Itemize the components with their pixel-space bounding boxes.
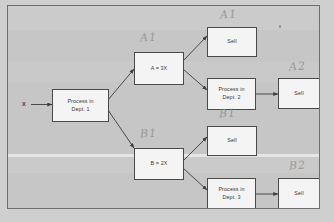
node-a-equals-3x[interactable]: A = 3X (134, 52, 184, 85)
node-a-equals-3x-label: A = 3X (151, 65, 168, 73)
node-process-dept-1-line-2: Dept. 1 (67, 106, 93, 114)
node-sell-a2[interactable]: Sell (278, 78, 320, 109)
node-process-dept-2-line-1: Process in (218, 86, 244, 94)
connector-b-to-proc3 (183, 168, 207, 190)
connector-a-to-proc2 (183, 69, 207, 90)
node-process-dept-1-line-1: Process in (67, 98, 93, 106)
node-b-equals-2x-label: B = 2X (151, 160, 168, 168)
node-process-dept-1[interactable]: Process in Dept. 1 (52, 89, 109, 122)
node-sell-b1-label: Sell (227, 137, 236, 145)
connector-a-to-sell-a1 (183, 36, 207, 61)
connector-proc1-to-b (108, 110, 134, 148)
diagram-sheet: X Process in Dept. 1 A = 3X B = 2X Sell … (7, 5, 320, 209)
connector-proc1-to-a (108, 69, 134, 100)
node-b-equals-2x[interactable]: B = 2X (134, 148, 184, 180)
node-sell-a1-label: Sell (227, 38, 236, 46)
screenshot-canvas: X Process in Dept. 1 A = 3X B = 2X Sell … (0, 0, 334, 222)
node-process-dept-3[interactable]: Process in Dept. 3 (207, 178, 256, 209)
node-sell-a1[interactable]: Sell (207, 27, 257, 57)
node-sell-b1[interactable]: Sell (207, 126, 257, 156)
connector-b-to-sell-b1 (183, 137, 207, 161)
node-process-dept-3-line-2: Dept. 3 (218, 194, 244, 202)
node-process-dept-2-line-2: Dept. 2 (218, 94, 244, 102)
node-sell-a2-label: Sell (294, 90, 303, 98)
input-label-x: X (22, 101, 26, 107)
node-process-dept-2[interactable]: Process in Dept. 2 (207, 78, 256, 110)
node-sell-b2-label: Sell (294, 190, 303, 198)
node-process-dept-3-line-1: Process in (218, 186, 244, 194)
node-sell-b2[interactable]: Sell (278, 178, 320, 209)
